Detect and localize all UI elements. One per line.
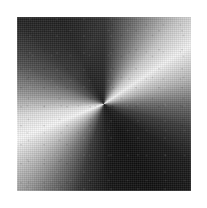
conic-gradient-layer	[17, 17, 191, 191]
image-canvas	[0, 0, 207, 208]
gradient-square	[17, 17, 191, 191]
